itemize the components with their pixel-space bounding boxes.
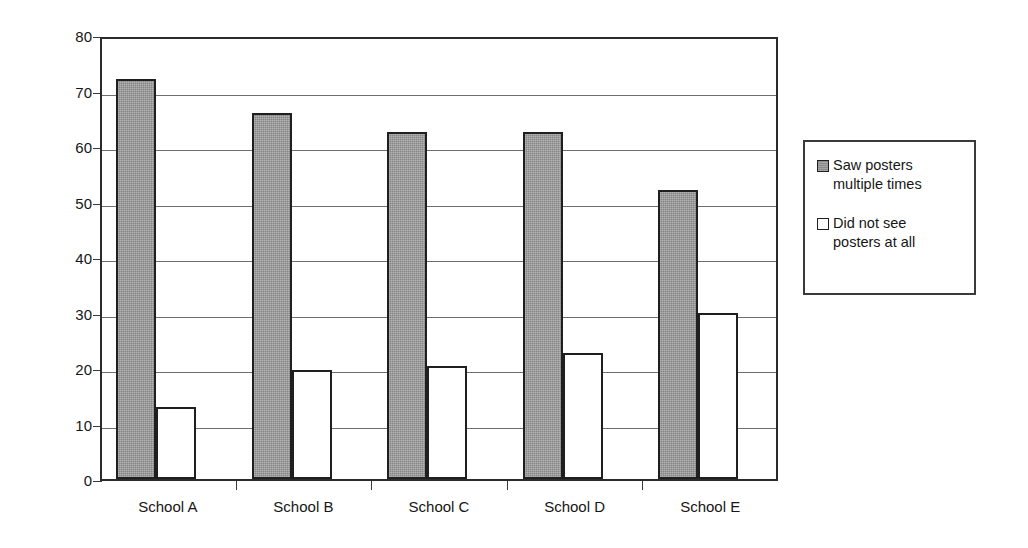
- legend-label: Saw postersmultiple times: [833, 156, 922, 194]
- x-axis-category-label-school-e: School E: [642, 498, 778, 515]
- bar-school-a-series-1: [116, 79, 156, 479]
- bar-school-d-series-2: [563, 353, 603, 479]
- x-axis-category-label-school-d: School D: [507, 498, 643, 515]
- y-axis-tick-label: 60: [52, 139, 92, 156]
- x-axis-category-label-school-b: School B: [236, 498, 372, 515]
- legend-label-line-2: multiple times: [833, 176, 922, 192]
- y-axis-tick-label: 70: [52, 84, 92, 101]
- bar-school-c-series-2: [427, 366, 467, 479]
- legend-label-line-1: Saw posters: [833, 157, 913, 173]
- y-axis-tick-label: 20: [52, 361, 92, 378]
- legend-label-line-1: Did not see: [833, 215, 906, 231]
- y-axis-tick-label: 0: [52, 472, 92, 489]
- x-axis-category-label-school-c: School C: [371, 498, 507, 515]
- x-axis-category-label-school-a: School A: [100, 498, 236, 515]
- bar-school-e-series-1: [658, 190, 698, 479]
- x-axis-tick-mark: [507, 481, 508, 490]
- y-axis-tick-label: 10: [52, 417, 92, 434]
- x-axis-tick-mark: [642, 481, 643, 490]
- bar-school-a-series-2: [156, 407, 196, 479]
- bar-school-b-series-1: [252, 113, 292, 479]
- legend-swatch-white-icon: [817, 218, 829, 230]
- bar-school-b-series-2: [292, 370, 332, 479]
- legend-entry-1: Saw postersmultiple times: [817, 156, 964, 194]
- y-axis-tick-label: 30: [52, 306, 92, 323]
- bar-chart-figure: Percent of students 01020304050607080 Sc…: [0, 0, 1028, 548]
- y-axis-tick-label: 50: [52, 195, 92, 212]
- legend-entry-2: Did not seeposters at all: [817, 214, 964, 252]
- bar-school-d-series-1: [523, 132, 563, 479]
- chart-legend: Saw postersmultiple timesDid not seepost…: [803, 140, 976, 295]
- legend-label: Did not seeposters at all: [833, 214, 915, 252]
- legend-label-line-2: posters at all: [833, 234, 915, 250]
- y-axis-tick-label: 80: [52, 28, 92, 45]
- plot-area: [100, 37, 778, 481]
- x-axis-tick-mark: [236, 481, 237, 490]
- x-axis-tick-marks: [100, 481, 778, 491]
- x-axis-tick-mark: [371, 481, 372, 490]
- bar-school-e-series-2: [698, 313, 738, 480]
- y-axis-tick-label: 40: [52, 250, 92, 267]
- legend-swatch-gray-icon: [817, 160, 829, 172]
- bar-school-c-series-1: [387, 132, 427, 479]
- bars-layer: [102, 39, 776, 479]
- y-axis-tick-labels: 01020304050607080: [40, 37, 92, 481]
- x-axis-category-labels: School ASchool BSchool CSchool DSchool E: [100, 498, 778, 526]
